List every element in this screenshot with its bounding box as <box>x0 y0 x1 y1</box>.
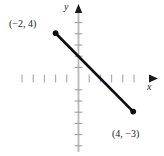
data-point-marker-a <box>53 30 59 36</box>
data-point-label-b: (4, −3) <box>112 129 139 139</box>
y-axis-label: y <box>64 2 68 12</box>
line-segment-series <box>53 30 136 114</box>
coordinate-plane-figure: y x (−2, 4) (4, −3) <box>0 0 164 156</box>
data-point-label-a: (−2, 4) <box>9 19 36 29</box>
segment-line <box>56 33 134 111</box>
x-axis-label: x <box>147 82 151 92</box>
x-axis <box>17 75 158 83</box>
y-axis-arrow-icon <box>75 4 82 13</box>
data-point-marker-b <box>130 109 136 115</box>
